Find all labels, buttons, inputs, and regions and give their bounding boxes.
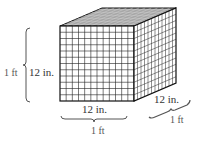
- width-label-in: 12 in.: [82, 104, 107, 115]
- depth-label-ft: 1 ft: [170, 115, 184, 125]
- width-label-ft: 1 ft: [91, 126, 105, 136]
- cube-diagram: 1 ft 12 in. 12 in. 1 ft 12 in. 1 ft: [0, 0, 204, 144]
- height-label-in: 12 in.: [29, 67, 54, 78]
- depth-label-in: 12 in.: [154, 94, 179, 105]
- height-label-ft: 1 ft: [4, 68, 18, 78]
